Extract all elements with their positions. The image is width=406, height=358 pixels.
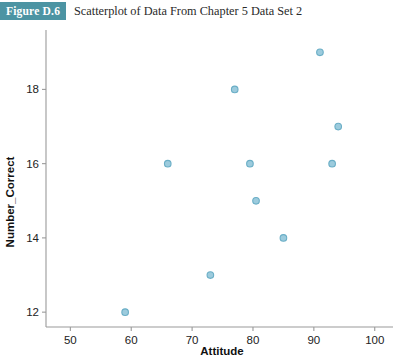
scatterplot-canvas: 12141618 5060708090100 Attitude Number_C…	[0, 24, 406, 358]
data-point	[280, 235, 287, 242]
y-tick-label: 14	[26, 232, 39, 244]
data-point	[253, 197, 260, 204]
data-point	[231, 86, 238, 93]
data-points	[122, 49, 342, 315]
data-point	[247, 160, 254, 167]
x-axis-title: Attitude	[200, 345, 243, 357]
x-tick-label: 70	[186, 334, 199, 346]
y-tick-label: 18	[26, 83, 39, 95]
x-tick-label: 100	[365, 334, 384, 346]
x-tick-label: 60	[125, 334, 138, 346]
x-axis: 5060708090100	[46, 327, 393, 346]
x-tick-label: 80	[247, 334, 260, 346]
scatterplot: 12141618 5060708090100 Attitude Number_C…	[0, 24, 406, 358]
figure-header: Figure D.6 Scatterplot of Data From Chap…	[0, 0, 406, 24]
y-tick-label: 16	[26, 158, 39, 170]
data-point	[335, 123, 342, 130]
data-point	[317, 49, 324, 56]
figure-number-badge: Figure D.6	[0, 2, 66, 20]
figure-number-label: Figure D.6	[6, 5, 60, 17]
data-point	[207, 272, 214, 279]
y-tick-label: 12	[26, 306, 39, 318]
data-point	[122, 309, 129, 316]
y-axis-title: Number_Correct	[4, 156, 16, 247]
data-point	[329, 160, 336, 167]
figure-caption: Scatterplot of Data From Chapter 5 Data …	[74, 2, 302, 20]
x-tick-label: 90	[307, 334, 320, 346]
y-axis: 12141618	[26, 30, 46, 327]
data-point	[164, 160, 171, 167]
x-tick-label: 50	[64, 334, 77, 346]
